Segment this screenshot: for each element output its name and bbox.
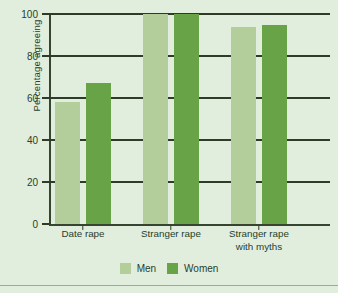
y-axis-tick-label: 40 [4,135,38,146]
legend-item-men[interactable]: Men [120,263,156,274]
bar-chart: Percentage agreeing 020406080100 Date ra… [0,0,338,293]
bar-women-2 [262,25,287,225]
legend: MenWomen [0,263,338,274]
x-axis-line [49,224,330,226]
bar-men-2 [231,27,256,224]
bar-women-1 [174,14,199,224]
y-axis-title: Percentage agreeing [31,0,42,146]
x-axis-category-label: Date rape [35,228,131,241]
x-axis-category-label: Stranger rape [123,228,219,241]
y-axis-tick [42,97,49,98]
legend-item-women[interactable]: Women [167,263,218,274]
y-axis-tick-label: 80 [4,51,38,62]
y-axis-tick [42,55,49,56]
legend-label: Women [184,263,218,274]
y-axis-tick-label: 20 [4,177,38,188]
footer-rule [0,285,338,286]
y-axis-tick [42,13,49,14]
y-axis-tick [42,223,49,224]
y-axis-line [49,14,51,225]
bar-women-0 [86,83,111,224]
bar-men-1 [143,14,168,224]
y-axis-tick [42,139,49,140]
bar-men-0 [55,102,80,224]
y-axis-tick-label: 0 [4,219,38,230]
y-axis-tick-label: 100 [4,9,38,20]
legend-swatch-women [167,263,178,274]
plot-area [49,14,330,224]
legend-swatch-men [120,263,131,274]
legend-label: Men [137,263,156,274]
y-axis-tick-label: 60 [4,93,38,104]
x-axis-category-label: Stranger rape with myths [211,228,307,253]
y-axis-tick [42,181,49,182]
